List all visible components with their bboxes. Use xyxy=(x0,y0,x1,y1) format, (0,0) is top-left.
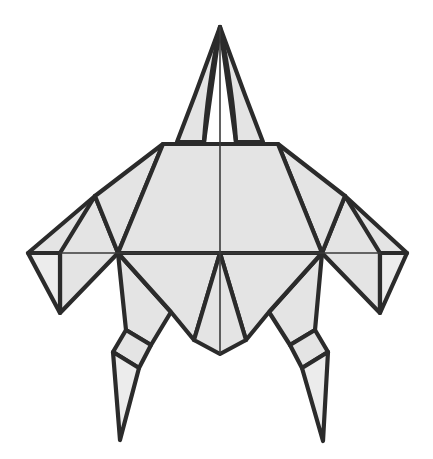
right-wing-tip-facet xyxy=(380,253,407,313)
left-wing-tip-facet xyxy=(28,253,60,313)
right-leg-claw-facet xyxy=(302,352,328,441)
origami-figure-root xyxy=(0,0,433,459)
origami-diagram xyxy=(0,0,433,459)
beak-right-flap-facet xyxy=(220,27,263,142)
beak-left-flap-facet xyxy=(177,27,220,142)
left-leg-claw-facet xyxy=(113,352,139,440)
